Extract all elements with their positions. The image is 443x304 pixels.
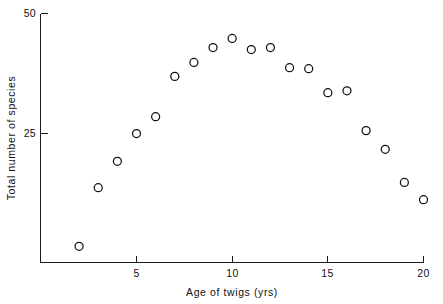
data-point (228, 34, 236, 42)
data-point (266, 44, 274, 52)
x-tick-label-5: 5 (133, 267, 139, 279)
data-point (190, 58, 198, 66)
y-axis-ticks (41, 14, 48, 134)
data-point (171, 72, 179, 80)
data-point (75, 242, 83, 250)
data-point (362, 127, 370, 135)
data-point (113, 157, 121, 165)
y-tick-label-25: 25 (24, 127, 36, 139)
data-point (420, 196, 428, 204)
data-point (133, 130, 141, 138)
plot-canvas: 50 25 5 10 15 20 Age of twigs (yrs) Tota… (0, 0, 443, 304)
data-point (94, 184, 102, 192)
data-point (400, 178, 408, 186)
x-tick-label-15: 15 (321, 267, 333, 279)
data-point (305, 65, 313, 73)
data-point (209, 44, 217, 52)
x-tick-label-20: 20 (417, 267, 429, 279)
x-axis-ticks (137, 256, 424, 263)
data-point (381, 145, 389, 153)
data-point (343, 87, 351, 95)
x-axis-title: Age of twigs (yrs) (186, 286, 278, 298)
data-point (152, 113, 160, 121)
x-tick-label-10: 10 (226, 267, 238, 279)
data-point (324, 89, 332, 97)
scatter-plot-figure: 50 25 5 10 15 20 Age of twigs (yrs) Tota… (0, 0, 443, 304)
y-axis-title: Total number of species (5, 76, 17, 201)
data-point (247, 46, 255, 54)
data-point-group (75, 34, 427, 250)
data-point (286, 64, 294, 72)
y-tick-label-50: 50 (24, 7, 36, 19)
